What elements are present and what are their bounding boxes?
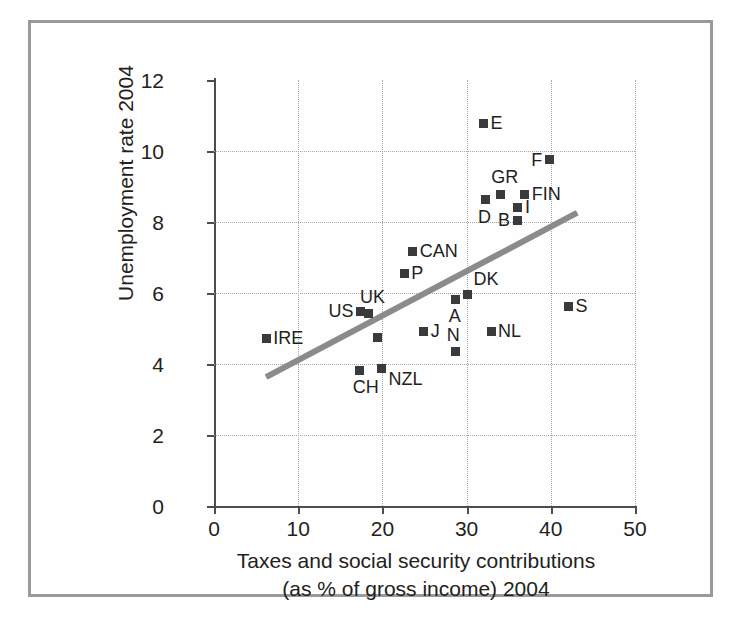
- x-tick-mark: [467, 506, 469, 514]
- y-tick-label: 8: [124, 212, 164, 233]
- data-point-label-n: N: [447, 326, 460, 344]
- data-point-label-j: J: [431, 322, 440, 340]
- x-axis-title-line-2: (as % of gross income) 2004: [181, 575, 651, 603]
- y-tick-label: 2: [124, 425, 164, 446]
- data-point-i[interactable]: [513, 203, 522, 212]
- data-point-label-ire: IRE: [273, 329, 303, 347]
- data-point-label-fin: FIN: [532, 185, 561, 203]
- x-tick-label: 40: [526, 518, 576, 539]
- plot-area: IRECHUSUKNZLPCANJANDKNLEDGRBIFINFS: [214, 80, 635, 506]
- data-point-label-b: B: [498, 211, 510, 229]
- data-point-can[interactable]: [408, 247, 417, 256]
- data-point-fin[interactable]: [520, 190, 529, 199]
- data-point-label-s: S: [575, 297, 587, 315]
- x-tick-mark: [382, 506, 384, 514]
- data-point-label-f: F: [531, 151, 542, 169]
- x-tick-label: 20: [357, 518, 407, 539]
- data-point[interactable]: [373, 333, 382, 342]
- y-tick-label: 10: [124, 141, 164, 162]
- trend-line: [265, 210, 579, 380]
- data-point-j[interactable]: [419, 327, 428, 336]
- data-point-label-nzl: NZL: [389, 370, 423, 388]
- data-point-p[interactable]: [400, 269, 409, 278]
- x-tick-label: 30: [442, 518, 492, 539]
- x-tick-label: 0: [189, 518, 239, 539]
- x-tick-label: 50: [610, 518, 660, 539]
- x-tick-mark: [635, 506, 637, 514]
- data-point-n[interactable]: [451, 347, 460, 356]
- y-tick-mark: [207, 506, 215, 508]
- grid-line-horizontal: [214, 435, 635, 436]
- data-point-b[interactable]: [513, 216, 522, 225]
- data-point-uk[interactable]: [364, 309, 373, 318]
- data-point-gr[interactable]: [496, 190, 505, 199]
- data-point-label-a: A: [449, 307, 461, 325]
- data-point-ch[interactable]: [355, 366, 364, 375]
- x-axis-line: [213, 506, 637, 508]
- data-point-label-i: I: [525, 198, 530, 216]
- grid-line-horizontal: [214, 364, 635, 365]
- data-point-dk[interactable]: [463, 290, 472, 299]
- grid-line-horizontal: [214, 151, 635, 152]
- data-point-nzl[interactable]: [377, 364, 386, 373]
- data-point-s[interactable]: [564, 302, 573, 311]
- y-tick-label: 12: [124, 70, 164, 91]
- y-tick-label: 0: [124, 496, 164, 517]
- x-axis-title-line-1: Taxes and social security contributions: [181, 547, 651, 575]
- data-point-ire[interactable]: [262, 334, 271, 343]
- data-point-label-dk: DK: [473, 270, 498, 288]
- data-point-label-nl: NL: [498, 322, 521, 340]
- data-point-label-ch: CH: [353, 378, 379, 396]
- data-point-a[interactable]: [451, 295, 460, 304]
- grid-line-vertical: [635, 80, 636, 506]
- data-point-f[interactable]: [545, 155, 554, 164]
- x-axis-title: Taxes and social security contributions …: [181, 547, 651, 603]
- data-point-label-p: P: [411, 264, 423, 282]
- data-point-label-us: US: [329, 302, 354, 320]
- data-point-e[interactable]: [479, 119, 488, 128]
- y-tick-label: 6: [124, 283, 164, 304]
- figure-frame: Unemployment rate 2004 Taxes and social …: [28, 20, 713, 597]
- x-tick-mark: [298, 506, 300, 514]
- data-point-nl[interactable]: [487, 327, 496, 336]
- data-point-label-gr: GR: [491, 168, 518, 186]
- data-point-label-uk: UK: [360, 288, 385, 306]
- data-point-label-can: CAN: [420, 242, 458, 260]
- grid-line-horizontal: [214, 222, 635, 223]
- data-point-label-d: D: [478, 208, 491, 226]
- y-tick-label: 4: [124, 354, 164, 375]
- data-point-label-e: E: [490, 114, 502, 132]
- data-point-d[interactable]: [481, 195, 490, 204]
- x-tick-label: 10: [273, 518, 323, 539]
- x-tick-mark: [551, 506, 553, 514]
